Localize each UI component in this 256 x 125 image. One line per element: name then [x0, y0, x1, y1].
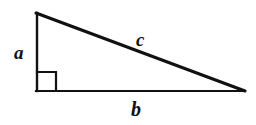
right-triangle-figure: a b c [0, 0, 256, 125]
right-angle-square-icon [37, 72, 56, 90]
side-label-c: c [136, 30, 144, 49]
side-label-b: b [131, 99, 141, 119]
triangle-drawing [0, 0, 256, 125]
side-label-a: a [14, 43, 24, 62]
hypotenuse-line [36, 13, 245, 91]
